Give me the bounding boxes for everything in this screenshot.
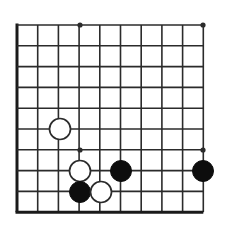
star-point-top-right-hoshi	[200, 22, 205, 27]
goban-svg	[0, 0, 228, 237]
black-stone	[193, 161, 214, 182]
white-stone	[50, 119, 71, 140]
black-stone	[111, 161, 132, 182]
white-stone	[70, 161, 91, 182]
board-background	[0, 0, 228, 237]
white-stone	[91, 182, 112, 203]
go-board-diagram	[0, 0, 228, 237]
star-point-bottom-left-hoshi	[77, 147, 82, 152]
star-point-bottom-right-hoshi	[200, 147, 205, 152]
black-stone	[70, 182, 91, 203]
star-point-top-left-hoshi	[77, 22, 82, 27]
